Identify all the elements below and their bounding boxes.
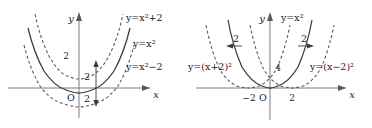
- shift-up-arrowhead: [93, 60, 98, 67]
- shift-down-label: 2: [84, 93, 90, 104]
- curve-label-bottom: y=x²−2: [125, 61, 163, 72]
- y-axis-arrowhead: [76, 12, 82, 21]
- curve-label-middle: y=x²: [132, 38, 156, 49]
- figure-vertical-shift: 2 2 2 O y x y=x²+2 y=x² y=x²−2: [0, 0, 186, 128]
- shift-right-label: 2: [301, 33, 307, 44]
- x-tick-label-minus-2: −2: [242, 93, 255, 103]
- x-axis-label: x: [153, 89, 159, 100]
- y-axis-label: y: [258, 13, 265, 24]
- x-axis-arrowhead: [338, 85, 346, 91]
- shift-down-arrowhead: [93, 100, 98, 107]
- figure-horizontal-shift: 2 2 4 −2 2 O y x y=x² y=(x+2)² y=(x−2)²: [186, 0, 372, 128]
- figure-page: 2 2 2 O y x y=x²+2 y=x² y=x²−2: [0, 0, 372, 128]
- curve-y-equals-x-minus-2-squared: [250, 25, 334, 88]
- shift-left-arrowhead: [226, 43, 233, 48]
- shift-up-label: 2: [84, 71, 90, 82]
- y-axis-label: y: [67, 13, 74, 24]
- x-tick-label-2: 2: [289, 93, 295, 103]
- curve-y-equals-x-plus-2-squared: [206, 25, 290, 88]
- origin-label: O: [259, 92, 267, 103]
- curve-label-top: y=x²+2: [125, 12, 163, 23]
- shift-left-label: 2: [233, 33, 239, 44]
- y-tick-label-4: 4: [275, 63, 281, 73]
- curve-label-left: y=(x+2)²: [187, 61, 232, 72]
- curve-label-middle: y=x²: [280, 12, 304, 23]
- y-axis-arrowhead: [267, 12, 273, 21]
- y-tick-label-2: 2: [63, 51, 69, 61]
- curve-label-right: y=(x−2)²: [309, 61, 354, 72]
- x-axis-arrowhead: [142, 85, 150, 91]
- shift-right-arrowhead: [307, 43, 314, 48]
- x-axis-label: x: [349, 89, 355, 100]
- origin-label: O: [67, 92, 75, 103]
